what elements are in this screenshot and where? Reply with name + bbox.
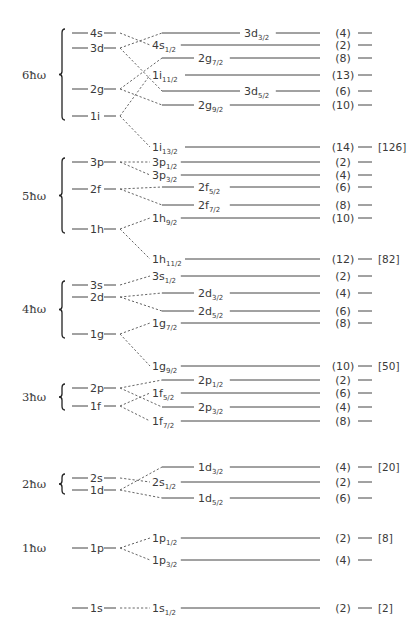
- oscillator-shell-label: 6ħω: [22, 68, 46, 82]
- spin-orbit-level: 1i13/2(14)[126]: [152, 141, 406, 156]
- oscillator-shell-label: 3ħω: [22, 390, 46, 404]
- oscillator-level-label: 2f: [90, 183, 102, 196]
- level-label: 2s1/2: [152, 476, 176, 491]
- occupancy-count: (6): [335, 85, 351, 98]
- spin-orbit-level: 1h9/2(10): [152, 212, 372, 227]
- magic-number: [82]: [378, 253, 400, 265]
- splitting-connector: [120, 293, 162, 297]
- spin-orbit-level: 1f7/2(8): [152, 415, 372, 430]
- level-label: 3d3/2: [244, 27, 269, 42]
- occupancy-count: (4): [335, 287, 351, 300]
- magic-number: [20]: [378, 461, 400, 473]
- spin-orbit-level: 2g9/2(10): [162, 99, 372, 114]
- spin-orbit-level: 1g7/2(8): [152, 317, 372, 332]
- occupancy-count: (2): [335, 476, 351, 489]
- splitting-connector: [120, 189, 162, 205]
- occupancy-count: (10): [332, 360, 355, 373]
- level-label: 1d5/2: [198, 492, 223, 507]
- oscillator-level-label: 1f: [90, 400, 102, 413]
- level-label: 3s1/2: [152, 270, 176, 285]
- level-label: 1i11/2: [152, 69, 178, 84]
- splitting-connector: [120, 116, 150, 147]
- occupancy-count: (2): [335, 602, 351, 615]
- occupancy-count: (8): [335, 52, 351, 65]
- magic-number: [126]: [378, 141, 406, 153]
- oscillator-shell-label: 2ħω: [22, 477, 46, 491]
- shell-brace: [59, 29, 65, 120]
- oscillator-shells: 6ħω4s3d2g1i5ħω3p2f1h4ħω3s2d1g3ħω2p1f2ħω2…: [22, 27, 116, 615]
- magic-number: [2]: [378, 602, 393, 614]
- splitting-connector: [120, 393, 150, 406]
- occupancy-count: (8): [335, 199, 351, 212]
- occupancy-count: (8): [335, 317, 351, 330]
- level-label: 2f5/2: [198, 181, 220, 196]
- splitting-connector: [120, 187, 162, 189]
- level-label: 1p1/2: [152, 532, 177, 547]
- level-label: 4s1/2: [152, 39, 176, 54]
- level-label: 1h9/2: [152, 212, 177, 227]
- oscillator-level-label: 2g: [90, 83, 104, 96]
- spin-orbit-level: 1s1/2(2)[2]: [152, 602, 393, 617]
- occupancy-count: (4): [335, 554, 351, 567]
- level-label: 1d3/2: [198, 461, 223, 476]
- occupancy-count: (4): [335, 461, 351, 474]
- oscillator-level-label: 1i: [90, 110, 100, 123]
- shell-brace: [59, 474, 65, 494]
- spin-orbit-level: 1i11/2(13): [152, 69, 372, 84]
- oscillator-shell-label: 1ħω: [22, 541, 46, 555]
- level-label: 1h11/2: [152, 253, 182, 268]
- spin-orbit-levels: 3d3/2(4)4s1/2(2)2g7/2(8)1i11/2(13)3d5/2(…: [152, 27, 406, 617]
- level-label: 2d5/2: [198, 305, 223, 320]
- shell-model-diagram: 6ħω4s3d2g1i5ħω3p2f1h4ħω3s2d1g3ħω2p1f2ħω2…: [0, 0, 419, 635]
- occupancy-count: (14): [332, 141, 355, 154]
- spin-orbit-level: 3s1/2(2): [152, 270, 372, 285]
- splitting-connector: [120, 406, 150, 421]
- level-label: 1p3/2: [152, 554, 177, 569]
- oscillator-level-label: 1h: [90, 223, 104, 236]
- occupancy-count: (2): [335, 270, 351, 283]
- oscillator-level-label: 2p: [90, 382, 104, 395]
- spin-orbit-level: 1p1/2(2)[8]: [152, 532, 393, 547]
- oscillator-level-label: 3p: [90, 156, 104, 169]
- level-label: 1s1/2: [152, 602, 176, 617]
- splitting-connector: [120, 218, 150, 229]
- splitting-connector: [120, 297, 162, 311]
- spin-orbit-level: 1p3/2(4): [152, 554, 372, 569]
- occupancy-count: (4): [335, 401, 351, 414]
- splitting-connector: [120, 490, 162, 498]
- magic-number: [8]: [378, 532, 393, 544]
- shell-brace: [59, 281, 65, 338]
- occupancy-count: (6): [335, 387, 351, 400]
- occupancy-count: (13): [332, 69, 355, 82]
- level-label: 3d5/2: [244, 85, 269, 100]
- occupancy-count: (12): [332, 253, 355, 266]
- spin-orbit-level: 2s1/2(2): [152, 476, 372, 491]
- spin-orbit-level: 2f5/2(6): [162, 181, 372, 196]
- spin-orbit-level: 1f5/2(6): [152, 387, 372, 402]
- level-label: 1f5/2: [152, 387, 174, 402]
- spin-orbit-level: 1d3/2(4)[20]: [162, 461, 400, 476]
- splitting-connector: [120, 89, 162, 105]
- spin-orbit-level: 2p3/2(4): [162, 401, 372, 416]
- level-label: 1i13/2: [152, 141, 178, 156]
- occupancy-count: (6): [335, 181, 351, 194]
- splitting-connector: [120, 162, 150, 175]
- level-label: 1f7/2: [152, 415, 174, 430]
- oscillator-level-label: 1d: [90, 484, 104, 497]
- spin-orbit-level: 1h11/2(12)[82]: [152, 253, 400, 268]
- splitting-connector: [120, 334, 150, 366]
- occupancy-count: (2): [335, 39, 351, 52]
- splitting-connector: [120, 229, 150, 259]
- occupancy-count: (2): [335, 532, 351, 545]
- splitting-connector: [120, 323, 150, 334]
- oscillator-level-label: 3d: [90, 42, 104, 55]
- oscillator-level-label: 4s: [90, 27, 103, 40]
- occupancy-count: (2): [335, 374, 351, 387]
- level-label: 2g9/2: [198, 99, 223, 114]
- oscillator-shell-label: 5ħω: [22, 189, 46, 203]
- spin-orbit-level: 1g9/2(10)[50]: [152, 360, 400, 375]
- level-label: 3p3/2: [152, 169, 177, 184]
- splitting-connector: [120, 75, 150, 116]
- occupancy-count: (8): [335, 415, 351, 428]
- occupancy-count: (10): [332, 99, 355, 112]
